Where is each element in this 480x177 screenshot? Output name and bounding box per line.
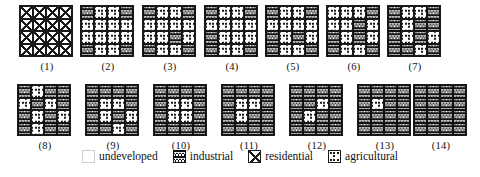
grid-cell-residential [33,19,46,32]
grid-cell-agricultural [143,19,156,32]
grid-cell-agricultural [180,98,193,111]
grid-cell-industrial [86,85,99,98]
grid-cell-agricultural [244,19,257,32]
grid-cell-agricultural [305,19,318,32]
grid-cell-industrial [222,123,235,136]
panel-grid [221,84,275,136]
grid-cell-residential [33,6,46,19]
grid-cell-industrial [427,6,440,19]
grid-cell-agricultural [414,6,427,19]
grid-cell-industrial [388,31,401,44]
grid-cell-agricultural [205,19,218,32]
grid-cell-industrial [453,110,466,123]
panel-grid [413,84,467,136]
grid-cell-industrial [329,123,342,136]
grid-cell-industrial [414,98,427,111]
panel-grid [357,84,411,136]
grid-cell-industrial [371,110,384,123]
panel-13: (13) [357,84,413,152]
panel-14: (14) [413,84,469,152]
grid-cell-industrial [244,44,257,57]
grid-cell-industrial [388,44,401,57]
grid-cell-industrial [99,85,112,98]
grid-cell-agricultural [169,19,182,32]
grid-cell-agricultural [107,6,120,19]
grid-cell-industrial [261,98,274,111]
legend-item-industrial: industrial [173,150,233,163]
grid-cell-industrial [169,31,182,44]
grid-cell-agricultural [340,44,353,57]
grid-cell-industrial [261,123,274,136]
grid-cell-agricultural [235,110,248,123]
grid-cell-industrial [358,98,371,111]
grid-cell-industrial [353,19,366,32]
panel-5: (5) [265,5,321,73]
grid-cell-residential [59,44,72,57]
grid-cell-agricultural [414,44,427,57]
grid-cell-industrial [235,123,248,136]
grid-cell-agricultural [231,19,244,32]
grid-cell-agricultural [218,44,231,57]
grid-cell-agricultural [143,31,156,44]
grid-cell-industrial [397,110,410,123]
panel-grid [85,84,139,136]
panel-4: (4) [204,5,260,73]
grid-cell-industrial [180,123,193,136]
grid-cell-industrial [44,123,57,136]
grid-cell-industrial [244,6,257,19]
grid-cell-agricultural [125,110,138,123]
grid-cell-industrial [112,85,125,98]
grid-cell-industrial [266,44,279,57]
grid-cell-industrial [397,85,410,98]
grid-cell-industrial [427,123,440,136]
panel-label: (6) [326,61,382,73]
swatch-undeveloped-icon [82,150,95,163]
grid-cell-industrial [427,85,440,98]
grid-cell-agricultural [99,110,112,123]
grid-cell-agricultural [44,98,57,111]
grid-cell-agricultural [156,44,169,57]
grid-cell-agricultural [218,6,231,19]
legend-item-undeveloped: undeveloped [82,150,158,163]
grid-cell-industrial [329,98,342,111]
grid-cell-agricultural [353,44,366,57]
grid-cell-industrial [427,19,440,32]
panel-6: (6) [326,5,382,73]
grid-cell-residential [20,6,33,19]
grid-cell-industrial [193,123,206,136]
grid-cell-industrial [440,110,453,123]
grid-cell-residential [46,44,59,57]
grid-cell-industrial [397,98,410,111]
grid-cell-industrial [290,98,303,111]
grid-cell-industrial [329,110,342,123]
grid-cell-industrial [290,123,303,136]
grid-cell-agricultural [180,110,193,123]
grid-cell-industrial [366,6,379,19]
grid-cell-agricultural [31,110,44,123]
grid-cell-industrial [303,123,316,136]
grid-cell-agricultural [169,6,182,19]
grid-cell-industrial [266,31,279,44]
grid-cell-industrial [453,85,466,98]
legend: undevelopedindustrialresidentialagricult… [0,150,480,163]
grid-cell-industrial [290,110,303,123]
grid-cell-residential [59,31,72,44]
grid-cell-industrial [440,98,453,111]
grid-cell-industrial [182,6,195,19]
panel-grid [326,5,380,57]
grid-cell-agricultural [292,6,305,19]
grid-cell-residential [59,19,72,32]
grid-cell-agricultural [94,19,107,32]
grid-cell-industrial [18,123,31,136]
grid-cell-industrial [81,44,94,57]
grid-cell-agricultural [107,31,120,44]
grid-cell-industrial [120,44,133,57]
grid-cell-agricultural [218,31,231,44]
grid-cell-industrial [235,85,248,98]
grid-cell-residential [46,6,59,19]
grid-cell-agricultural [340,31,353,44]
panel-2: (2) [80,5,136,73]
grid-cell-agricultural [81,31,94,44]
grid-cell-industrial [205,44,218,57]
grid-cell-industrial [248,110,261,123]
